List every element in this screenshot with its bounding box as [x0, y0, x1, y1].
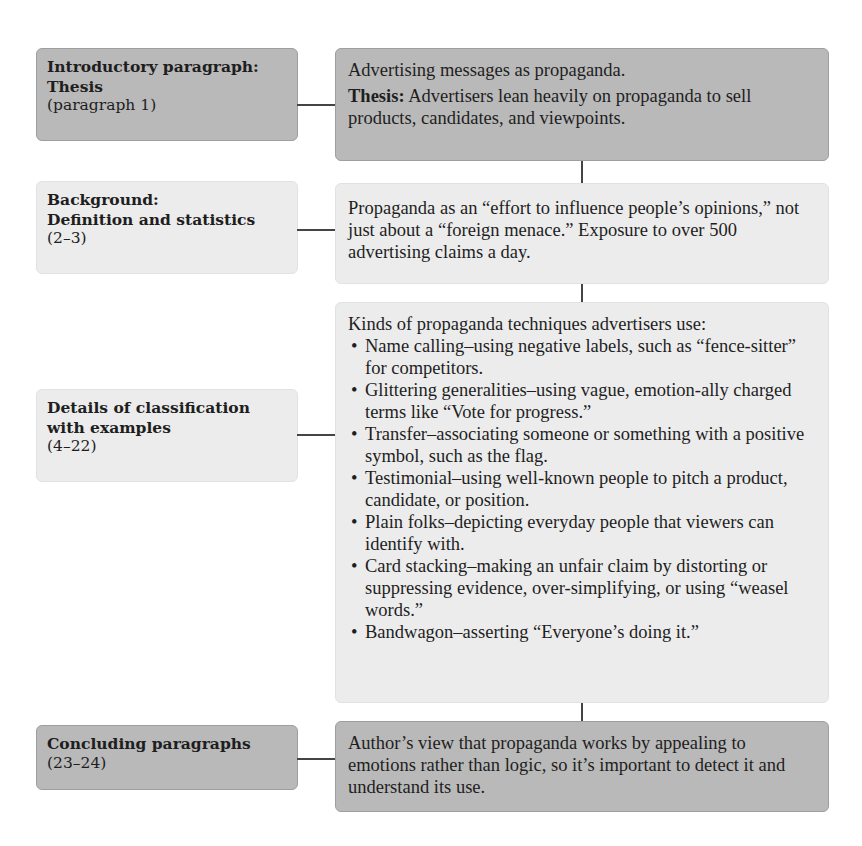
- background-label-box: Background: Definition and statistics (2…: [36, 181, 298, 274]
- intro-topic: Advertising messages as propaganda.: [348, 59, 816, 81]
- thesis-statement: Thesis: Advertisers lean heavily on prop…: [348, 85, 816, 129]
- intro-title-line-2: Thesis: [47, 77, 287, 97]
- intro-label-box: Introductory paragraph: Thesis (paragrap…: [36, 48, 298, 141]
- technique-transfer: Transfer–associating someone or somethin…: [348, 423, 816, 467]
- details-title-line-2: with examples: [47, 418, 287, 438]
- technique-testimonial: Testimonial–using well-known people to p…: [348, 467, 816, 511]
- techniques-list: Name calling–using negative labels, such…: [348, 335, 816, 643]
- conclusion-content-box: Author’s view that propaganda works by a…: [335, 721, 829, 812]
- techniques-intro: Kinds of propaganda techniques advertise…: [348, 313, 816, 335]
- connector-row-1: [297, 104, 336, 106]
- conclusion-label-box: Concluding paragraphs (23–24): [36, 725, 298, 790]
- background-content-box: Propaganda as an “effort to influence pe…: [335, 183, 829, 284]
- thesis-text: Advertisers lean heavily on propaganda t…: [348, 86, 751, 128]
- connector-v-3: [581, 703, 583, 722]
- details-paragraph-range: (4–22): [47, 437, 287, 457]
- details-content-box: Kinds of propaganda techniques advertise…: [335, 302, 829, 703]
- technique-name-calling: Name calling–using negative labels, such…: [348, 335, 816, 379]
- conclusion-text: Author’s view that propaganda works by a…: [348, 732, 816, 798]
- technique-bandwagon: Bandwagon–asserting “Everyone’s doing it…: [348, 621, 816, 643]
- intro-paragraph-range: (paragraph 1): [47, 96, 287, 116]
- intro-title-line-1: Introductory paragraph:: [47, 57, 287, 77]
- conclusion-paragraph-range: (23–24): [47, 754, 287, 774]
- intro-content-box: Advertising messages as propaganda. Thes…: [335, 48, 829, 161]
- background-title-line-1: Background:: [47, 190, 287, 210]
- thesis-label: Thesis:: [348, 86, 405, 106]
- background-title-line-2: Definition and statistics: [47, 210, 287, 230]
- connector-v-2: [581, 284, 583, 302]
- connector-row-4: [297, 758, 336, 760]
- connector-row-2: [297, 229, 336, 231]
- technique-card-stacking: Card stacking–making an unfair claim by …: [348, 555, 816, 621]
- background-paragraph-range: (2–3): [47, 229, 287, 249]
- background-text: Propaganda as an “effort to influence pe…: [348, 197, 816, 263]
- connector-row-3: [297, 434, 336, 436]
- details-title-line-1: Details of classification: [47, 398, 287, 418]
- technique-plain-folks: Plain folks–depicting everyday people th…: [348, 511, 816, 555]
- conclusion-title: Concluding paragraphs: [47, 734, 287, 754]
- technique-glittering-generalities: Glittering generalities–using vague, emo…: [348, 379, 816, 423]
- details-label-box: Details of classification with examples …: [36, 389, 298, 482]
- connector-v-1: [581, 161, 583, 183]
